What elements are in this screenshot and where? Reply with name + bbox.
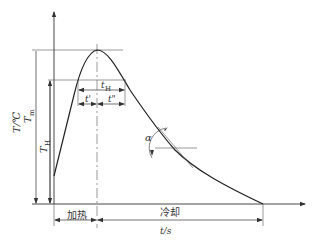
t-prime-label: t' [85, 94, 91, 104]
thermal-curve [54, 50, 263, 204]
cooling-label: 冷却 [160, 206, 180, 218]
thermal-cycle-diagram: T/℃ T m T H t H t' t" α 加热 冷却 t/s [0, 0, 313, 248]
heating-label: 加热 [67, 209, 87, 221]
tangent-line [158, 127, 193, 168]
svg-text:H: H [44, 140, 52, 146]
alpha-label: α [145, 132, 152, 143]
tm-label: T m [22, 109, 36, 123]
th-time-label: t H [101, 80, 111, 93]
svg-text:H: H [105, 85, 111, 93]
t-double-prime-label: t" [108, 94, 116, 104]
svg-text:m: m [28, 109, 36, 116]
y-axis-label: T/℃ [11, 112, 22, 133]
x-axis-label: t/s [160, 226, 172, 236]
